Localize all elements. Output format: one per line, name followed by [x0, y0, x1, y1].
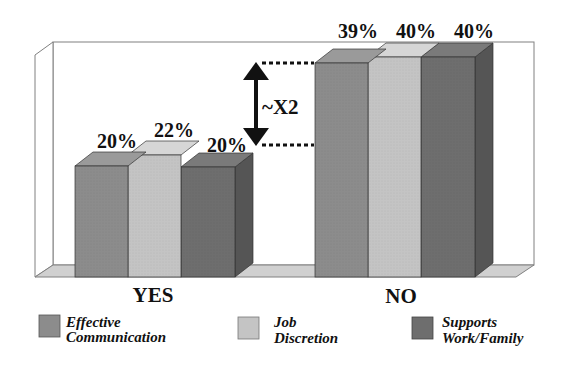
legend-label-line1: Effective [65, 314, 121, 330]
bar-group-no [315, 43, 493, 277]
category-label-yes: YES [133, 283, 174, 307]
ratio-label: ~X2 [262, 95, 299, 119]
legend-swatch [39, 315, 60, 337]
value-label: 40% [396, 20, 436, 42]
bar-no-supports [421, 43, 493, 277]
legend-label-line2: Communication [66, 329, 166, 345]
legend-label-line1: Supports [442, 314, 497, 330]
legend-item-supports-work-family: Supports Work/Family [412, 314, 524, 346]
value-label: 20% [207, 134, 247, 156]
category-label-no: NO [385, 284, 417, 308]
value-label: 39% [338, 20, 378, 42]
category-axis: YES NO [133, 283, 417, 308]
bar-yes-supports [181, 153, 253, 277]
legend: Effective Communication Job Discretion S… [39, 314, 524, 346]
chart: 20% 22% 20% 39% 40% 40% ~X2 YES NO Effec… [0, 0, 569, 379]
legend-label-line1: Job [273, 314, 297, 330]
legend-label-line2: Discretion [273, 330, 338, 346]
side-wall [35, 42, 53, 277]
value-label: 40% [454, 20, 494, 42]
value-label: 22% [154, 119, 194, 141]
legend-swatch [238, 317, 259, 339]
legend-label-line2: Work/Family [442, 330, 524, 346]
legend-item-effective-communication: Effective Communication [39, 314, 166, 345]
bar-group-yes [75, 141, 253, 277]
legend-item-job-discretion: Job Discretion [238, 314, 338, 346]
legend-swatch [412, 317, 433, 339]
value-label: 20% [97, 130, 137, 152]
